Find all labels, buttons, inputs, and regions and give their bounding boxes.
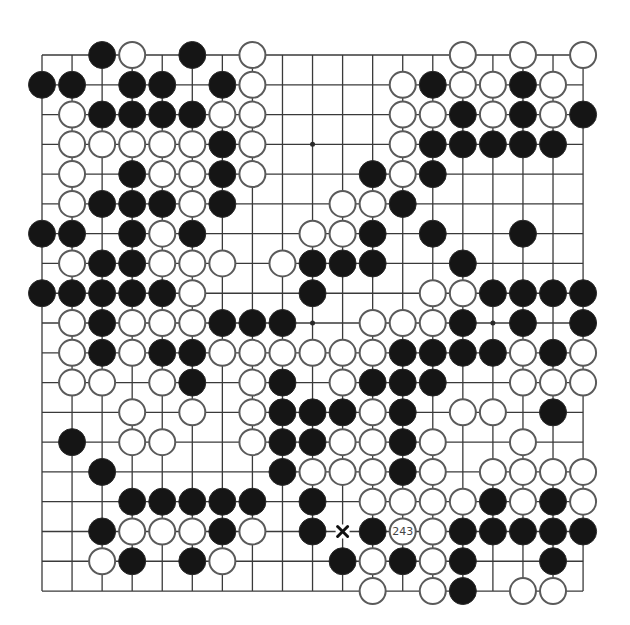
black-stone	[119, 548, 146, 575]
black-stone	[209, 161, 236, 188]
white-stone	[59, 250, 85, 276]
white-stone	[360, 340, 386, 366]
white-stone	[420, 429, 446, 455]
white-stone	[450, 72, 476, 98]
black-stone	[119, 280, 146, 307]
white-stone	[360, 459, 386, 485]
white-stone	[89, 370, 115, 396]
black-stone	[179, 488, 206, 515]
white-stone	[149, 221, 175, 247]
white-stone	[119, 399, 145, 425]
black-stone	[269, 369, 296, 396]
black-stone	[269, 399, 296, 426]
white-stone	[390, 72, 416, 98]
black-stone	[89, 190, 116, 217]
black-stone	[389, 429, 416, 456]
white-stone	[149, 310, 175, 336]
white-stone	[119, 131, 145, 157]
white-stone	[450, 280, 476, 306]
white-stone	[209, 250, 235, 276]
black-stone	[209, 518, 236, 545]
white-stone	[480, 459, 506, 485]
white-stone	[119, 310, 145, 336]
black-stone	[149, 71, 176, 98]
black-stone	[509, 131, 536, 158]
white-stone	[239, 340, 265, 366]
white-stone	[330, 429, 356, 455]
white-stone	[179, 310, 205, 336]
black-stone	[540, 280, 567, 307]
black-stone	[570, 518, 597, 545]
black-stone	[359, 161, 386, 188]
white-stone	[330, 221, 356, 247]
black-stone	[89, 458, 116, 485]
white-stone	[179, 191, 205, 217]
black-stone	[119, 190, 146, 217]
white-stone	[390, 131, 416, 157]
black-stone	[119, 101, 146, 128]
white-stone	[360, 548, 386, 574]
go-board-svg[interactable]: 243	[0, 0, 630, 625]
white-stone	[510, 578, 536, 604]
white-stone	[330, 459, 356, 485]
white-stone	[59, 310, 85, 336]
black-stone	[359, 369, 386, 396]
white-stone	[540, 102, 566, 128]
black-stone	[449, 250, 476, 277]
white-stone	[420, 102, 446, 128]
white-stone	[510, 370, 536, 396]
white-stone	[570, 459, 596, 485]
white-stone	[209, 102, 235, 128]
black-stone	[540, 548, 567, 575]
white-stone	[300, 340, 326, 366]
black-stone	[299, 399, 326, 426]
white-stone	[540, 578, 566, 604]
black-stone	[419, 339, 446, 366]
white-stone	[149, 518, 175, 544]
black-stone	[419, 220, 446, 247]
go-board[interactable]: 243	[0, 0, 630, 625]
white-stone	[269, 340, 295, 366]
white-stone	[300, 459, 326, 485]
black-stone	[149, 488, 176, 515]
black-stone	[570, 280, 597, 307]
black-stone	[89, 250, 116, 277]
white-stone	[420, 280, 446, 306]
move-number-label: 243	[392, 525, 413, 538]
black-stone	[149, 280, 176, 307]
black-stone	[509, 280, 536, 307]
markers-layer	[336, 524, 350, 538]
black-stone	[89, 518, 116, 545]
white-stone	[420, 459, 446, 485]
black-stone	[329, 250, 356, 277]
white-stone	[179, 280, 205, 306]
black-stone	[509, 518, 536, 545]
black-stone	[419, 71, 446, 98]
star-point	[310, 321, 315, 326]
black-stone	[389, 369, 416, 396]
white-stone	[239, 161, 265, 187]
white-stone	[59, 161, 85, 187]
black-stone	[119, 250, 146, 277]
black-stone	[509, 71, 536, 98]
black-stone	[449, 578, 476, 605]
white-stone	[330, 191, 356, 217]
white-stone	[300, 221, 326, 247]
black-stone	[299, 488, 326, 515]
black-stone	[389, 458, 416, 485]
white-stone	[179, 161, 205, 187]
white-stone	[360, 310, 386, 336]
black-stone	[119, 220, 146, 247]
white-stone	[209, 548, 235, 574]
white-stone	[360, 489, 386, 515]
black-stone	[269, 458, 296, 485]
black-stone	[59, 429, 86, 456]
black-stone	[149, 190, 176, 217]
black-stone	[449, 310, 476, 337]
white-stone	[119, 42, 145, 68]
black-stone	[509, 310, 536, 337]
white-stone	[239, 370, 265, 396]
white-stone	[540, 459, 566, 485]
white-stone	[360, 399, 386, 425]
black-stone	[59, 220, 86, 247]
